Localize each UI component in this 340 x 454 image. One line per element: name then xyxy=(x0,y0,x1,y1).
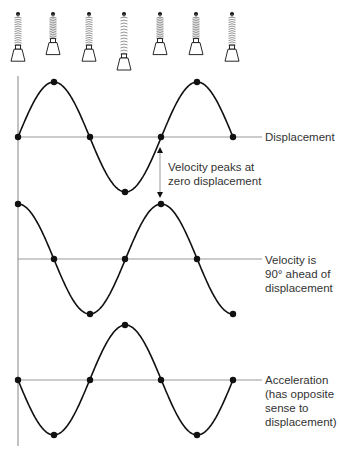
acceleration-label-line-4: displacement) xyxy=(265,415,337,429)
displacement-point xyxy=(87,134,93,140)
annotation-line-1: Velocity peaks at xyxy=(168,160,261,174)
velocity-point xyxy=(87,311,93,317)
spring-mass-icon xyxy=(82,12,96,61)
acceleration-point xyxy=(51,432,57,438)
displacement-point xyxy=(122,189,128,195)
velocity-point xyxy=(51,256,57,262)
displacement-point xyxy=(194,79,200,85)
acceleration-point xyxy=(87,377,93,383)
acceleration-point xyxy=(194,432,200,438)
displacement-point xyxy=(158,134,164,140)
velocity-point xyxy=(194,256,200,262)
velocity-label-line-1: Velocity is xyxy=(265,253,333,267)
displacement-point xyxy=(230,134,236,140)
velocity-point xyxy=(15,201,21,207)
displacement-label: Displacement xyxy=(265,130,335,144)
velocity-label-line-3: displacement xyxy=(265,281,333,295)
acceleration-label-line-2: (has opposite xyxy=(265,387,337,401)
velocity-point xyxy=(158,201,164,207)
spring-mass-icon xyxy=(225,12,239,61)
acceleration-point xyxy=(230,377,236,383)
velocity-point xyxy=(230,311,236,317)
displacement-label-line: Displacement xyxy=(265,130,335,144)
spring-mass-icon xyxy=(117,12,131,70)
acceleration-point xyxy=(158,377,164,383)
spring-mass-icon xyxy=(189,12,203,55)
double-arrow-icon xyxy=(157,147,163,198)
spring-mass-icon xyxy=(153,12,167,55)
displacement-point xyxy=(51,79,57,85)
annotation-line-2: zero displacement xyxy=(168,174,261,188)
spring-mass-icon xyxy=(46,12,60,55)
acceleration-point xyxy=(15,377,21,383)
velocity-label: Velocity is 90° ahead of displacement xyxy=(265,253,333,295)
velocity-point xyxy=(122,256,128,262)
acceleration-label-line-3: sense to xyxy=(265,401,337,415)
velocity-label-line-2: 90° ahead of xyxy=(265,267,333,281)
annotation-velocity-peaks: Velocity peaks at zero displacement xyxy=(168,160,261,188)
acceleration-label: Acceleration (has opposite sense to disp… xyxy=(265,373,337,429)
spring-mass-row xyxy=(11,12,239,70)
spring-mass-icon xyxy=(11,12,25,61)
displacement-point xyxy=(15,134,21,140)
acceleration-label-line-1: Acceleration xyxy=(265,373,337,387)
acceleration-point xyxy=(122,322,128,328)
